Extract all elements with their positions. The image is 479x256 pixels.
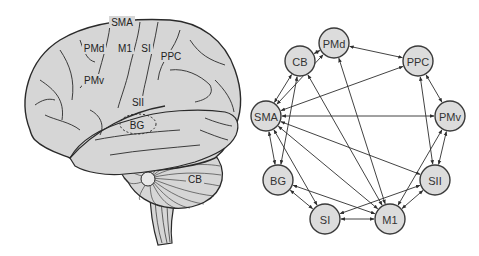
brain-label-bg: BG — [130, 120, 145, 131]
brain-label-pmd: PMd — [84, 43, 105, 54]
edge-bg-si — [290, 190, 312, 209]
edge-cb-m1 — [308, 75, 382, 205]
node-label: PPC — [407, 56, 430, 68]
edge-sma-bg — [269, 132, 275, 165]
brain-label-si: SI — [141, 43, 150, 54]
network-nodes: PMdCBPPCSMAPMvBGSIISIM1 — [251, 28, 465, 234]
brain-label-sma: SMA — [111, 17, 133, 28]
brain-label-ppc: PPC — [161, 51, 182, 62]
brain-label-pmv: PMv — [84, 75, 104, 86]
node-pmv: PMv — [435, 101, 465, 131]
node-m1: M1 — [375, 204, 405, 234]
node-label: SII — [428, 175, 441, 187]
node-label: M1 — [382, 214, 397, 226]
edge-sma-m1 — [278, 126, 377, 209]
edge-cb-bg — [281, 77, 297, 165]
node-label: SI — [320, 214, 330, 226]
node-cb: CB — [285, 46, 315, 76]
node-sii: SII — [420, 165, 450, 195]
node-label: PMd — [323, 38, 346, 50]
node-label: SMA — [254, 111, 279, 123]
brain-label-sii: SII — [132, 97, 144, 108]
brain-label-cb: CB — [188, 174, 202, 185]
edge-sma-sii — [281, 122, 420, 175]
node-label: PMv — [439, 111, 462, 123]
node-pmd: PMd — [319, 28, 349, 58]
brain-illustration: SMA PMd M1 SI PPC PMv SII BG CB — [25, 16, 240, 245]
node-si: SI — [310, 204, 340, 234]
brain-label-m1: M1 — [118, 43, 132, 54]
node-label: CB — [292, 56, 307, 68]
figure-svg: SMA PMd M1 SI PPC PMv SII BG CB PMdCBPPC… — [0, 0, 479, 256]
node-label: BG — [270, 175, 286, 187]
figure: SMA PMd M1 SI PPC PMv SII BG CB PMdCBPPC… — [0, 0, 479, 256]
edge-ppc-sii — [420, 77, 432, 164]
node-ppc: PPC — [403, 46, 433, 76]
edge-ppc-pmv — [426, 75, 442, 102]
edge-pmv-sii — [439, 132, 447, 165]
edge-pmd-ppc — [350, 46, 403, 57]
edge-cb-pmd — [314, 50, 320, 53]
pons-circle — [141, 172, 155, 186]
node-sma: SMA — [251, 101, 281, 131]
node-bg: BG — [263, 165, 293, 195]
